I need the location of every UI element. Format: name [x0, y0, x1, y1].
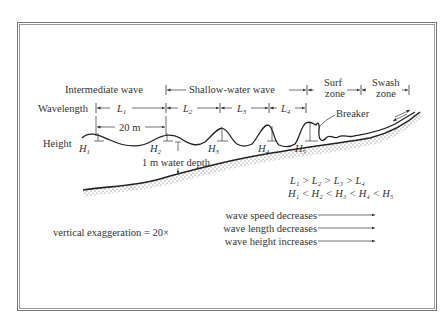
wavelength-L2: L2 — [182, 103, 193, 116]
trend-speed: wave speed decreases — [225, 210, 317, 221]
svg-text:H3: H3 — [207, 143, 220, 156]
trend-height: wave height increases — [225, 236, 317, 247]
surf-zone-label-2: zone — [325, 88, 345, 99]
spacing-label: 20 m — [119, 122, 140, 133]
swash-zone-label-1: Swash — [372, 77, 400, 88]
wavelength-L1: L1 — [116, 103, 126, 116]
height-label: Height — [43, 138, 72, 149]
breaker-label: Breaker — [336, 108, 370, 119]
wavelength-label: Wavelength — [38, 103, 89, 114]
vertical-exaggeration-label: vertical exaggeration = 20× — [53, 227, 169, 238]
water-depth-label: 1 m water depth — [142, 157, 211, 168]
height-marker-H4: H4 — [257, 126, 277, 156]
height-marker-H3: H3 — [207, 129, 228, 156]
wavelength-L4: L4 — [280, 103, 291, 116]
shallow-water-wave-label: Shallow-water wave — [189, 84, 275, 95]
wavelength-L3: L3 — [236, 103, 247, 116]
trend-length: wave length decreases — [223, 223, 317, 234]
svg-text:H2: H2 — [149, 143, 162, 156]
intermediate-wave-label: Intermediate wave — [65, 84, 143, 95]
wavelength-relation: L₁ > L₂ > L₃ > L₄ — [289, 175, 365, 186]
height-relation: H₁ < H₂ < H₃ < H₄ < H₅ — [287, 188, 394, 199]
wave-zones-diagram: Intermediate wave Shallow-water wave Sur… — [0, 0, 447, 328]
zone-header: Intermediate wave Shallow-water wave Sur… — [65, 77, 409, 99]
svg-text:H1: H1 — [78, 143, 90, 156]
spacing-20m: 20 m — [96, 116, 166, 136]
trends-list: wave speed decreases wave length decreas… — [223, 210, 375, 247]
height-row: Height H1 H2 H3 H4 H5 — [43, 123, 318, 156]
surf-zone-label-1: Surf — [324, 77, 343, 88]
swash-zone-label-2: zone — [376, 88, 396, 99]
wavelength-row: Wavelength L1 L2 L3 L4 — [38, 103, 306, 116]
